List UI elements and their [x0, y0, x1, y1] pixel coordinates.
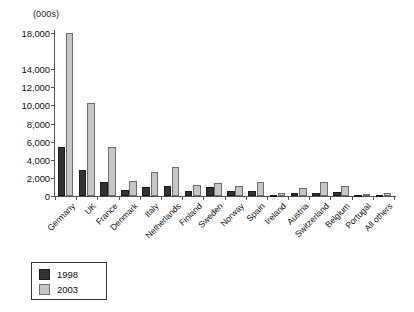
x-axis-tick-mark [373, 196, 374, 200]
x-axis-tick-mark [161, 196, 162, 200]
x-axis-tick-mark [330, 196, 331, 200]
x-axis-tick-mark [309, 196, 310, 200]
x-axis-label-italy: Italy [143, 201, 161, 219]
bar-2003-finland [193, 185, 201, 196]
x-axis-tick-mark [225, 196, 226, 200]
bar-1998-belgium [333, 192, 341, 196]
bar-2003-switzerland [320, 182, 328, 196]
y-axis-tick-mark [51, 142, 55, 143]
bar-2003-denmark [129, 181, 137, 196]
y-axis-tick-mark [51, 178, 55, 179]
bar-2003-ireland [278, 193, 286, 196]
y-axis-tick-mark [51, 69, 55, 70]
bar-2003-france [108, 147, 116, 196]
x-axis-tick-mark [119, 196, 120, 200]
bar-1998-all-others [376, 195, 384, 197]
x-axis-tick-mark [246, 196, 247, 200]
bar-2003-uk [87, 103, 95, 196]
bar-2003-italy [151, 172, 159, 196]
legend-swatch-1998 [39, 269, 50, 280]
bar-2003-sweden [214, 183, 222, 196]
x-axis-tick-mark [140, 196, 141, 200]
y-axis-tick-label: 4,000 [27, 154, 50, 165]
y-axis-tick-mark [51, 105, 55, 106]
bar-1998-germany [58, 147, 66, 196]
legend-swatch-2003 [39, 284, 50, 295]
x-axis-tick-mark [182, 196, 183, 200]
y-axis-tick-mark [51, 87, 55, 88]
x-axis-tick-mark [288, 196, 289, 200]
bar-2003-all-others [384, 193, 392, 196]
bar-2003-portugal [363, 194, 371, 196]
bar-2003-belgium [341, 186, 349, 196]
y-axis-tick-label: 0 [45, 191, 50, 202]
legend-label-1998: 1998 [57, 269, 78, 280]
y-axis-tick-mark [51, 33, 55, 34]
bar-1998-sweden [206, 187, 214, 196]
bar-1998-austria [291, 193, 299, 196]
bar-1998-finland [185, 191, 193, 196]
y-axis-tick-label: 18,000 [22, 28, 50, 39]
bar-1998-netherlands [164, 186, 172, 196]
y-axis-tick-label: 12,000 [22, 82, 50, 93]
x-axis-tick-mark [352, 196, 353, 200]
bar-1998-switzerland [312, 193, 320, 196]
bar-2003-germany [66, 33, 74, 196]
bar-1998-uk [79, 170, 87, 196]
bar-2003-austria [299, 188, 307, 196]
legend: 1998 2003 [31, 262, 107, 300]
y-axis-line [54, 30, 55, 196]
bar-1998-france [100, 182, 108, 196]
y-axis-tick-label: 6,000 [27, 136, 50, 147]
x-axis-tick-mark [97, 196, 98, 200]
bar-1998-spain [248, 191, 256, 196]
x-axis-tick-mark [203, 196, 204, 200]
bar-2003-netherlands [172, 167, 180, 196]
x-axis-tick-mark [394, 196, 395, 200]
bar-2003-norway [235, 186, 243, 196]
y-axis-tick-label: 8,000 [27, 118, 50, 129]
y-axis-tick-mark [51, 124, 55, 125]
x-axis-label-uk: UK [82, 201, 97, 216]
bar-1998-ireland [270, 195, 278, 197]
bar-chart: (000s) 18,00014,00012,00010,0008,0006,00… [0, 0, 414, 312]
legend-label-2003: 2003 [57, 284, 78, 295]
x-axis-tick-mark [55, 196, 56, 200]
bar-1998-portugal [354, 195, 362, 197]
legend-item-1998: 1998 [39, 268, 78, 280]
y-axis-tick-label: 14,000 [22, 64, 50, 75]
y-axis-tick-label: 10,000 [22, 100, 50, 111]
bar-1998-norway [227, 191, 235, 196]
y-axis-tick-label: 2,000 [27, 172, 50, 183]
x-axis-label-ireland: Ireland [263, 201, 288, 226]
bar-1998-denmark [121, 190, 129, 196]
x-axis-tick-mark [267, 196, 268, 200]
y-axis-tick-mark [51, 160, 55, 161]
x-axis-tick-mark [76, 196, 77, 200]
bar-2003-spain [257, 182, 265, 196]
legend-item-2003: 2003 [39, 283, 78, 295]
bar-1998-italy [142, 187, 150, 196]
